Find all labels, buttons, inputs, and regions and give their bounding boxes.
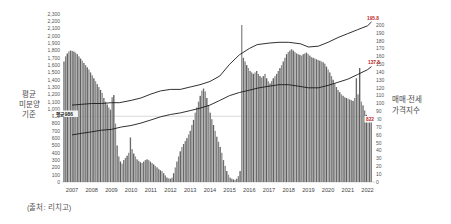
unsold-bar (322, 62, 323, 182)
unsold-bar (203, 89, 204, 183)
unsold-bar (266, 78, 267, 182)
unsold-bar (158, 169, 159, 182)
unsold-bar (221, 153, 222, 182)
x-axis-year-label: 2012 (164, 187, 176, 193)
unsold-bar (274, 76, 275, 182)
unsold-bar (369, 120, 370, 182)
unsold-bar (244, 61, 245, 182)
unsold-bar (296, 53, 297, 182)
unsold-bar (151, 163, 152, 182)
unsold-bar (87, 67, 88, 182)
unsold-bar (113, 95, 114, 182)
unsold-bar (213, 125, 214, 182)
unsold-bar (78, 56, 79, 182)
unsold-bar (246, 65, 247, 182)
x-axis-year-label: 2007 (66, 187, 78, 193)
unsold-bar (165, 175, 166, 182)
x-axis-year-label: 2021 (342, 187, 354, 193)
unsold-bar (289, 51, 290, 182)
unsold-bar (231, 179, 232, 182)
right-axis-tick-label: 10 (376, 171, 382, 177)
unsold-bar (168, 178, 169, 182)
unsold-bar (173, 173, 174, 182)
right-axis-tick-label: 40 (376, 147, 382, 153)
unsold-bar (286, 54, 287, 182)
unsold-bar (316, 59, 317, 182)
unsold-bar (239, 171, 240, 182)
unsold-bar (264, 74, 265, 182)
unsold-bar (156, 167, 157, 182)
x-axis-year-label: 2009 (105, 187, 117, 193)
unsold-bar (324, 64, 325, 182)
sale-index-end-value-label: 195.8 (367, 16, 379, 21)
unsold-bar (125, 158, 126, 182)
unsold-bar (116, 145, 117, 182)
unsold-bar (283, 61, 284, 182)
unsold-vs-price-index-chart: 평균 미분양 기준 매매·전세 가격지수 2,3002,2002,1002,00… (0, 0, 451, 224)
unsold-bar (97, 84, 98, 182)
average-value-label: 평균 986 (56, 111, 74, 118)
unsold-bar (170, 179, 171, 182)
unsold-bar (337, 90, 338, 182)
right-axis-tick-label: 190 (376, 30, 385, 36)
unsold-bar (356, 78, 357, 182)
unsold-bar (226, 171, 227, 182)
unsold-bar (163, 173, 164, 182)
source-note: (출처: 리치고) (27, 201, 71, 212)
unsold-bar (118, 156, 119, 182)
left-axis-tick-label: 1,100 (47, 99, 60, 105)
unsold-bar (273, 78, 274, 182)
left-axis-tick-label: 1,800 (47, 47, 60, 53)
unsold-bar (150, 162, 151, 182)
unsold-bar (190, 131, 191, 182)
left-axis-tick-label: 0 (57, 179, 60, 185)
unsold-bar (361, 102, 362, 182)
left-axis-tick-label: 2,300 (47, 11, 60, 17)
unsold-bar (141, 163, 142, 182)
unsold-bar (135, 156, 136, 182)
unsold-bar (233, 179, 234, 182)
left-axis-tick-label: 1,200 (47, 91, 60, 97)
left-axis-tick-label: 300 (52, 157, 61, 163)
unsold-bar (291, 49, 292, 182)
unsold-bar (121, 164, 122, 182)
unsold-bar (83, 63, 84, 182)
unsold-bar (236, 179, 237, 182)
unsold-bar (331, 76, 332, 182)
unsold-bar (344, 97, 345, 182)
unsold-bar (241, 25, 242, 182)
right-axis-tick-label: 0 (376, 179, 379, 185)
unsold-bar (180, 151, 181, 182)
unsold-bar (196, 108, 197, 183)
unsold-bar (281, 65, 282, 182)
unsold-bar (115, 124, 116, 182)
unsold-bar (346, 98, 347, 182)
right-axis-tick-label: 20 (376, 163, 382, 169)
unsold-bar (248, 68, 249, 182)
unsold-bar (359, 68, 360, 182)
x-axis-year-label: 2014 (204, 187, 216, 193)
left-axis-tick-label: 700 (52, 128, 61, 134)
unsold-bar (108, 108, 109, 183)
unsold-bar (181, 147, 182, 182)
unsold-bar (311, 57, 312, 182)
unsold-bar (309, 56, 310, 182)
unsold-bar (371, 122, 372, 182)
unsold-bar (234, 180, 235, 182)
x-axis-year-label: 2013 (184, 187, 196, 193)
x-axis-year-label: 2008 (85, 187, 97, 193)
left-axis-tick-label: 1,500 (47, 69, 60, 75)
unsold-bar (288, 52, 289, 182)
unsold-bar (314, 59, 315, 182)
unsold-bar (148, 160, 149, 182)
unsold-bar (329, 72, 330, 182)
unsold-bar (268, 81, 269, 182)
unsold-bar (342, 96, 343, 182)
unsold-bar (133, 154, 134, 182)
left-axis-tick-label: 1,300 (47, 84, 60, 90)
left-axis-tick-label: 100 (52, 172, 61, 178)
unsold-bar (278, 71, 279, 182)
unsold-bar (186, 138, 187, 182)
unsold-bar (293, 51, 294, 182)
unsold-bar (111, 97, 112, 182)
